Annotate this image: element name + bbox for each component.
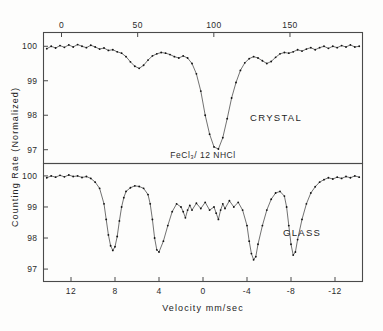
data-point	[151, 218, 153, 220]
data-point	[189, 205, 191, 207]
data-point	[59, 174, 61, 176]
data-point	[248, 240, 250, 242]
data-point	[332, 45, 334, 47]
data-point	[222, 203, 224, 205]
data-point	[121, 206, 123, 208]
data-point	[310, 47, 312, 49]
data-point	[171, 211, 173, 213]
data-point	[213, 206, 215, 208]
data-point	[191, 63, 193, 65]
data-point	[85, 176, 87, 178]
top-tick-label: 150	[282, 20, 297, 30]
data-point	[134, 185, 136, 187]
data-point	[224, 208, 226, 210]
lower-y-axis-ticks	[44, 176, 49, 269]
bottom-axis-tick-labels: 12840-4-8-12	[66, 286, 342, 296]
panel-label-glass: GLASS	[283, 227, 321, 238]
data-point	[200, 90, 202, 92]
data-point	[288, 52, 290, 54]
top-tick-label: 100	[206, 20, 221, 30]
data-point	[341, 177, 343, 179]
data-point	[103, 47, 105, 49]
spectrum-path	[47, 175, 359, 260]
data-point	[250, 253, 252, 255]
data-point	[217, 218, 219, 220]
data-point	[156, 249, 158, 251]
data-point	[112, 250, 114, 252]
data-point	[261, 60, 263, 62]
data-point	[283, 52, 285, 54]
bottom-tick-label: 4	[156, 286, 161, 296]
data-point	[99, 187, 101, 189]
bottom-tick-label: 8	[112, 286, 117, 296]
data-point	[182, 55, 184, 57]
data-point	[90, 44, 92, 46]
data-point	[275, 56, 277, 58]
data-point	[235, 82, 237, 84]
data-point	[336, 176, 338, 178]
data-point	[314, 186, 316, 188]
data-point	[110, 245, 112, 247]
data-point	[292, 254, 294, 256]
spectrum-path	[47, 45, 359, 149]
data-point	[151, 55, 153, 57]
data-point	[160, 52, 162, 54]
data-point	[63, 46, 65, 48]
data-point	[237, 201, 239, 203]
data-point	[345, 46, 347, 48]
data-point	[292, 51, 294, 53]
data-point	[123, 197, 125, 199]
y-tick-label: 100	[22, 41, 37, 51]
data-point	[297, 49, 299, 51]
data-point	[138, 186, 140, 188]
y-tick-label: 97	[27, 145, 37, 155]
mossbauer-figure: 050100150 12840-4-8-12 100999897 1009998…	[0, 0, 383, 331]
top-axis-ticks	[62, 33, 290, 38]
data-point	[125, 56, 127, 58]
data-point	[222, 137, 224, 139]
data-point	[239, 70, 241, 72]
data-point	[114, 246, 116, 248]
data-point	[226, 118, 228, 120]
data-point	[72, 46, 74, 48]
data-point	[341, 45, 343, 47]
data-point	[354, 175, 356, 177]
data-point	[55, 176, 57, 178]
data-point	[266, 63, 268, 65]
bottom-axis-ticks	[71, 277, 335, 282]
data-point	[77, 44, 79, 46]
data-point	[204, 114, 206, 116]
data-point	[103, 203, 105, 205]
lower-panel-frame	[44, 164, 363, 282]
data-point	[187, 57, 189, 59]
data-point	[323, 45, 325, 47]
y-tick-label: 99	[27, 76, 37, 86]
data-point	[215, 212, 217, 214]
data-point	[116, 236, 118, 238]
data-point	[336, 47, 338, 49]
data-point	[244, 62, 246, 64]
data-point	[279, 53, 281, 55]
data-point	[158, 251, 160, 253]
data-point	[68, 174, 70, 176]
data-point	[261, 225, 263, 227]
upper-y-axis-ticks	[44, 46, 49, 149]
y-tick-label: 99	[27, 202, 37, 212]
data-point	[327, 177, 329, 179]
data-point	[290, 243, 292, 245]
data-point	[248, 58, 250, 60]
top-tick-label: 0	[59, 20, 64, 30]
data-point	[213, 146, 215, 148]
data-point	[209, 209, 211, 211]
data-point	[81, 45, 83, 47]
data-point	[112, 49, 114, 51]
data-point	[63, 176, 65, 178]
data-point	[257, 243, 259, 245]
data-point	[319, 47, 321, 49]
data-point	[279, 191, 281, 193]
data-point	[46, 177, 48, 179]
data-point	[81, 177, 83, 179]
data-point	[147, 194, 149, 196]
data-point	[253, 259, 255, 261]
data-point	[147, 59, 149, 61]
